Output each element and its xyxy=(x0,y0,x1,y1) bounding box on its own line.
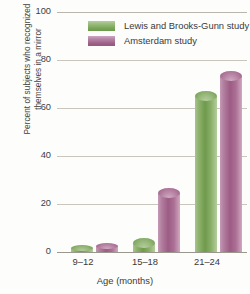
bar-amsterdam-21-24[interactable] xyxy=(220,71,242,252)
x-tick-label-15-18: 15–18 xyxy=(110,256,180,267)
legend-swatch-icon-amsterdam xyxy=(88,36,115,46)
bar-amsterdam-15-18[interactable] xyxy=(158,188,180,252)
bar-cap xyxy=(158,188,180,198)
y-tick-label-100: 100 xyxy=(21,6,51,16)
gridline-60 xyxy=(57,108,247,109)
x-axis-title: Age (months) xyxy=(0,275,250,286)
legend-item-lewis[interactable]: Lewis and Brooks-Gunn study xyxy=(88,19,249,32)
bar-cap xyxy=(220,71,242,81)
legend-label-amsterdam: Amsterdam study xyxy=(124,34,197,47)
y-tick-label-20: 20 xyxy=(21,198,51,208)
bar-lewis-21-24[interactable] xyxy=(195,91,217,252)
bar-cap xyxy=(71,245,93,251)
y-tick-label-80: 80 xyxy=(21,54,51,64)
bar-body xyxy=(220,76,242,252)
gridline-100 xyxy=(57,12,247,13)
legend: Lewis and Brooks-Gunn study Amsterdam st… xyxy=(88,19,249,49)
bar-lewis-15-18[interactable] xyxy=(133,238,155,252)
bar-body xyxy=(195,96,217,252)
legend-swatch-icon-lewis xyxy=(88,21,115,31)
bar-cap xyxy=(195,91,217,101)
y-tick-label-60: 60 xyxy=(21,102,51,112)
x-tick-label-21-24: 21–24 xyxy=(172,256,242,267)
legend-label-lewis: Lewis and Brooks-Gunn study xyxy=(124,19,249,32)
axis-baseline xyxy=(57,252,247,253)
gridline-40 xyxy=(57,156,247,157)
bar-chart: Percent of subjects who recognized thems… xyxy=(0,0,250,294)
bar-amsterdam-9-12[interactable] xyxy=(96,243,118,252)
bar-lewis-9-12[interactable] xyxy=(71,245,93,252)
y-tick-label-40: 40 xyxy=(21,150,51,160)
bar-body xyxy=(158,193,180,252)
y-axis-title: Percent of subjects who recognized thems… xyxy=(22,0,44,164)
y-axis-title-line-1: Percent of subjects who recognized xyxy=(22,0,33,164)
legend-item-amsterdam[interactable]: Amsterdam study xyxy=(88,34,249,47)
gridline-80 xyxy=(57,60,247,61)
bar-cap xyxy=(133,238,155,248)
y-tick-label-0: 0 xyxy=(21,246,51,256)
gridline-20 xyxy=(57,204,247,205)
y-axis-title-line-2: themselves in a mirror xyxy=(33,0,44,164)
x-tick-label-9-12: 9–12 xyxy=(48,256,118,267)
bar-cap xyxy=(96,243,118,249)
